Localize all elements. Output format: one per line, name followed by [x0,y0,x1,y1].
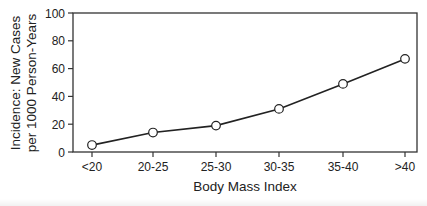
x-tick-label: 25-30 [201,160,232,174]
bmi-incidence-line-chart: 020406080100 <2020-2525-3030-3535-40>40 … [0,0,427,206]
y-axis-title-line1: Incidence: New Cases [8,16,23,151]
y-tick-label: 60 [52,62,66,76]
plot-frame [73,13,417,152]
cropped-caption-strip [0,199,427,206]
data-point-marker [401,55,410,64]
y-tick-label: 80 [52,34,66,48]
x-tick-label: 20-25 [138,160,169,174]
y-axis: 020406080100 [45,7,73,160]
data-point-marker [88,141,97,150]
y-tick-label: 100 [45,7,65,21]
data-point-marker [339,80,348,89]
x-tick-label: >40 [395,160,416,174]
data-point-marker [149,128,158,137]
series-line [92,59,405,145]
y-tick-label: 20 [52,118,66,132]
x-axis: <2020-2525-3030-3535-40>40 [82,152,416,174]
y-tick-label: 40 [52,90,66,104]
x-tick-label: 35-40 [328,160,359,174]
data-markers [88,55,410,150]
x-axis-title: Body Mass Index [193,179,297,194]
y-axis-title-line2: per 1000 Person-Years [24,14,39,153]
y-tick-label: 0 [58,146,65,160]
data-point-marker [212,121,221,130]
data-point-marker [275,105,284,114]
x-tick-label: <20 [82,160,103,174]
x-tick-label: 30-35 [264,160,295,174]
